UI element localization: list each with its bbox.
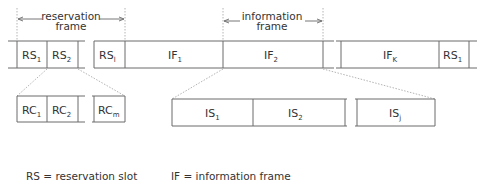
rs2-expansion-line-left [17,69,47,96]
cell-isj: ISj [389,107,401,122]
legend-if: IF = information frame [171,170,291,183]
cell-if1: IF1 [168,49,182,64]
cell-rs1-end: RS1 [443,49,462,64]
cell-rcm: RCm [98,104,120,119]
cell-rsl: RSl [99,49,116,64]
information-frame-label-line2: frame [256,20,287,32]
if2-expansion-line-left [172,69,223,99]
cell-rs1: RS1 [22,49,41,64]
cell-rc2: RC2 [52,104,71,119]
legend-left: RS = reservation slot RC = reservation c… [26,144,146,183]
cell-ifk: IFK [383,49,398,64]
cell-rc1: RC1 [22,104,41,119]
rs2-expansion-line-right [78,69,125,96]
if2-expansion-line-right [323,69,435,99]
reservation-frame-label-line2: frame [55,20,86,32]
top-row-group-3: IFK RS1 [336,41,477,68]
legend-rs: RS = reservation slot [26,170,146,183]
top-row-group-1: RS1 RS2 [8,41,85,68]
cell-is1: IS1 [205,107,220,122]
cell-if2: IF2 [264,49,278,64]
reservation-frame-annotation: reservation frame [17,8,125,41]
reservation-cycle-row: RC1 RC2 RCm [17,96,125,122]
legend-right: IF = information frame IS = information … [171,144,291,183]
cell-rs2: RS2 [52,49,71,64]
information-slot-row: IS1 IS2 ISj [172,99,435,126]
cell-is2: IS2 [288,107,303,122]
information-frame-annotation: information frame [223,8,323,41]
top-row-group-2: RSl IF1 IF2 [94,41,334,68]
